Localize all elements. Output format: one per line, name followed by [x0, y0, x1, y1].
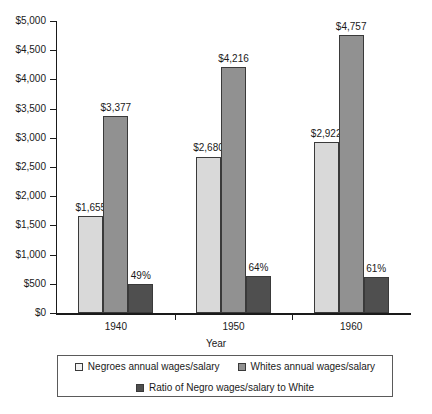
bar-chart: $0$500$1,000$1,500$2,000$2,500$3,000$3,5… [0, 0, 432, 414]
bar-value-label: $4,216 [204, 54, 264, 64]
legend-swatch-icon [136, 384, 144, 392]
bar [78, 216, 103, 313]
legend-item[interactable]: Negroes annual wages/salary [75, 362, 220, 372]
y-axis-tick [50, 313, 56, 314]
bar [364, 277, 389, 313]
y-axis-tick-label: $0 [35, 308, 46, 318]
y-axis-tick-label: $1,000 [15, 250, 46, 260]
y-axis-tick [50, 50, 56, 51]
bar-value-label: 64% [229, 263, 289, 273]
y-axis-tick [50, 109, 56, 110]
legend-label: Negroes annual wages/salary [88, 362, 220, 372]
legend-item[interactable]: Whites annual wages/salary [238, 362, 376, 372]
x-axis-category-label: 1940 [76, 321, 156, 332]
bar [196, 157, 221, 314]
legend: Negroes annual wages/salaryWhites annual… [57, 355, 393, 397]
bar-value-label: 49% [111, 271, 171, 281]
x-axis-tick [175, 314, 176, 320]
y-axis-tick [50, 138, 56, 139]
legend-swatch-icon [238, 363, 246, 371]
x-axis-category-label: 1950 [194, 321, 274, 332]
y-axis-tick [50, 284, 56, 285]
legend-label: Whites annual wages/salary [251, 362, 376, 372]
x-axis-line [56, 313, 411, 315]
y-axis-tick [50, 255, 56, 256]
y-axis-tick-label: $5,000 [15, 16, 46, 26]
bar-value-label: $3,377 [86, 103, 146, 113]
y-axis-tick [50, 196, 56, 197]
bar [221, 67, 246, 313]
y-axis-tick-label: $3,500 [15, 104, 46, 114]
legend-row-bottom: Ratio of Negro wages/salary to White [58, 377, 392, 398]
legend-row-top: Negroes annual wages/salaryWhites annual… [58, 356, 392, 377]
x-axis-tick [292, 314, 293, 320]
y-axis-tick-label: $2,000 [15, 191, 46, 201]
y-axis-tick-label: $2,500 [15, 162, 46, 172]
bar [246, 276, 271, 313]
y-axis-tick [50, 225, 56, 226]
x-axis-title: Year [0, 338, 432, 349]
bar [128, 284, 153, 313]
bar-value-label: $4,757 [321, 22, 381, 32]
y-axis-tick-label: $1,500 [15, 220, 46, 230]
y-axis-tick [50, 79, 56, 80]
y-axis-tick-label: $3,000 [15, 133, 46, 143]
plot-area: $1,655$3,37749%$2,680$4,21664%$2,922$4,7… [57, 21, 410, 313]
y-axis-tick-label: $4,500 [15, 45, 46, 55]
legend-swatch-icon [75, 363, 83, 371]
bar [103, 116, 128, 313]
x-axis-category-label: 1960 [311, 321, 391, 332]
y-axis-tick [50, 167, 56, 168]
y-axis-tick-label: $500 [24, 279, 46, 289]
bar [314, 142, 339, 313]
legend-label: Ratio of Negro wages/salary to White [149, 383, 314, 393]
bar-value-label: 61% [346, 264, 406, 274]
y-axis-tick-label: $4,000 [15, 74, 46, 84]
legend-item[interactable]: Ratio of Negro wages/salary to White [136, 383, 314, 393]
y-axis-tick [50, 21, 56, 22]
